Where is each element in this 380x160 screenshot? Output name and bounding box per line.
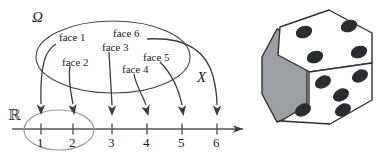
real-number-line [12,124,243,135]
six-sided-die [262,10,372,124]
real-line-label: ℝ [8,107,21,123]
tick-label-6: 6 [213,135,220,150]
arrowhead-face-4 [141,104,149,116]
outcome-label-face-5: face 5 [143,51,170,63]
figure-canvas: Ω X ℝ face 1 face 2 face 3 face 4 face 5… [0,0,380,160]
tick-label-3: 3 [108,135,115,150]
tick-label-5: 5 [178,135,185,150]
arrow-face-5 [160,62,182,105]
arrowhead-face-3 [108,106,116,117]
arrow-face-2 [69,66,73,104]
outcome-label-face-1: face 1 [59,31,86,43]
arrowhead-face-5 [178,105,186,116]
tick-label-1: 1 [37,135,44,150]
outcome-label-face-4: face 4 [122,63,149,75]
arrow-face-1 [41,44,56,104]
outcome-label-face-2: face 2 [62,56,89,68]
outcome-label-face-6: face 6 [113,27,140,39]
random-variable-label: X [196,69,207,85]
outcome-label-face-3: face 3 [102,41,129,53]
arrowhead-face-6 [213,106,221,117]
event-highlight-ellipse [24,110,94,150]
sample-space-label: Ω [32,9,43,25]
arrow-face-6 [147,39,217,105]
mapping-arrows [37,39,221,116]
tick-label-4: 4 [143,135,150,150]
die-top-face [278,10,372,72]
probability-mapping-diagram: Ω X ℝ face 1 face 2 face 3 face 4 face 5… [0,0,380,160]
arrow-face-3 [109,52,112,105]
arrowhead-face-2 [68,104,76,115]
tick-label-2: 2 [69,135,76,150]
